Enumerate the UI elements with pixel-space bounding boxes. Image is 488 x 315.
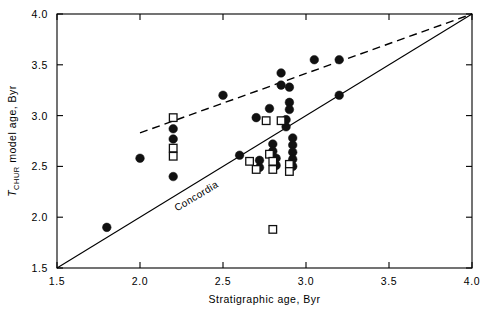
data-point-filled-circle [277, 69, 286, 78]
data-point-filled-circle [235, 151, 244, 160]
x-tick-label: 1.5 [49, 275, 65, 287]
x-tick-label: 2.5 [215, 275, 231, 287]
x-tick-label: 3.5 [381, 275, 397, 287]
data-point-filled-circle [169, 172, 178, 181]
y-tick-label: 2.5 [32, 160, 48, 172]
data-point-filled-circle [310, 55, 319, 64]
scatter-plot-svg: 1.52.02.53.03.54.0 1.52.02.53.03.54.0 Co… [0, 0, 488, 315]
y-axis-title-subscript: CHUR [12, 166, 21, 190]
data-point-filled-circle [169, 125, 178, 134]
data-point-filled-circle [219, 91, 228, 100]
data-point-open-square [252, 166, 260, 174]
data-point-filled-circle [136, 154, 145, 163]
x-tick-label: 2.0 [132, 275, 148, 287]
y-tick-label: 1.5 [32, 262, 48, 274]
data-point-open-square [277, 117, 285, 125]
data-point-filled-circle [335, 91, 344, 100]
x-tick-label: 3.0 [298, 275, 314, 287]
x-axis-title: Stratigraphic age, Byr [209, 293, 321, 305]
data-point-filled-circle [169, 135, 178, 144]
data-point-filled-circle [335, 55, 344, 64]
data-point-filled-circle [285, 105, 294, 114]
data-point-open-square [246, 158, 254, 166]
chart-figure: 1.52.02.53.03.54.0 1.52.02.53.03.54.0 Co… [0, 0, 488, 315]
data-point-filled-circle [277, 81, 286, 90]
data-point-open-square [269, 158, 277, 166]
data-point-open-square [266, 150, 274, 158]
data-point-open-square [269, 166, 277, 174]
data-point-open-square [269, 226, 277, 234]
data-point-filled-circle [285, 83, 294, 92]
y-axis-title-rest: model age, Byr [6, 85, 18, 166]
y-tick-label: 3.0 [32, 110, 48, 122]
data-point-filled-circle [252, 113, 261, 122]
data-point-filled-circle [103, 223, 112, 232]
y-tick-label: 4.0 [32, 8, 48, 20]
data-point-filled-circle [265, 104, 274, 113]
y-tick-label: 2.0 [32, 211, 48, 223]
data-point-open-square [286, 161, 294, 169]
data-point-open-square [169, 114, 177, 122]
data-point-open-square [169, 152, 177, 160]
x-tick-label: 4.0 [464, 275, 480, 287]
data-point-open-square [169, 144, 177, 152]
y-tick-label: 3.5 [32, 59, 48, 71]
data-point-open-square [262, 117, 270, 125]
data-point-open-square [286, 168, 294, 176]
